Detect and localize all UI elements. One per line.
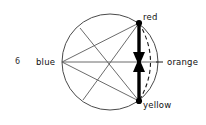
figure-container: 6 blue red yellow orange [0,0,206,125]
label-red: red [143,12,158,22]
node-dot-red [136,20,142,26]
label-blue: blue [36,57,55,67]
figure-number: 6 [15,57,20,67]
chord-red-lowerleft [83,23,139,100]
chord-blue-yellow [62,62,139,101]
arrowhead-up-icon [133,58,145,72]
chord-group [62,23,158,101]
chord-upperleft-yellow [80,28,139,101]
label-orange: orange [167,57,198,67]
node-dot-yellow [136,98,142,104]
label-yellow: yellow [143,100,171,110]
chord-blue-red [62,23,139,62]
